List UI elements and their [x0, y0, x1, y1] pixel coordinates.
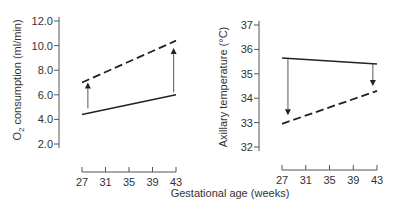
dashed-series-line — [282, 91, 377, 124]
x-tick-label: 31 — [300, 174, 312, 186]
y-tick-label: 36 — [241, 43, 253, 55]
dashed-series-line — [82, 41, 176, 83]
x-tick-label: 35 — [123, 176, 135, 188]
solid-series-line — [82, 95, 176, 115]
y-tick-label: 35 — [241, 68, 253, 80]
y-tick-label: 6.0 — [38, 89, 53, 101]
arrowhead-icon — [370, 80, 376, 86]
x-tick-label: 39 — [146, 176, 158, 188]
y-tick-label: 33 — [241, 117, 253, 129]
y-axis-label: Axillary temperature (°C) — [217, 27, 229, 148]
x-tick-label: 35 — [323, 174, 335, 186]
arrowhead-icon — [85, 83, 91, 89]
x-tick-label: 43 — [371, 174, 383, 186]
solid-series-line — [282, 58, 377, 64]
y-axis-label: O2 consumption (ml/min) — [11, 19, 26, 140]
y-tick-label: 2.0 — [38, 138, 53, 150]
x-tick-label: 39 — [347, 174, 359, 186]
x-tick-label: 31 — [99, 176, 111, 188]
y-tick-label: 8.0 — [38, 64, 53, 76]
y-tick-label: 37 — [241, 19, 253, 31]
arrowhead-icon — [285, 109, 291, 115]
x-axis-label: Gestational age (weeks) — [171, 187, 290, 199]
axillary-temperature-chart: 3233343536372731353943Axillary temperatu… — [217, 19, 383, 186]
y-tick-label: 4.0 — [38, 113, 53, 125]
o2-consumption-chart: 2.04.06.08.010.012.02731353943O2 consump… — [11, 15, 182, 188]
y-tick-label: 10.0 — [32, 40, 53, 52]
figure: 2.04.06.08.010.012.02731353943O2 consump… — [0, 0, 398, 209]
y-tick-label: 12.0 — [32, 15, 53, 27]
x-tick-label: 27 — [76, 176, 88, 188]
arrowhead-icon — [171, 48, 177, 54]
x-tick-label: 27 — [276, 174, 288, 186]
y-tick-label: 32 — [241, 141, 253, 153]
y-tick-label: 34 — [241, 92, 253, 104]
